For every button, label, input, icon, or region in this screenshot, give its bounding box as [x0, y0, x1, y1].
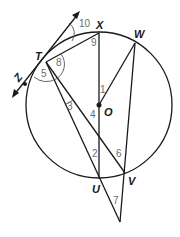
angle-4: 4	[90, 109, 96, 120]
chord-tv	[46, 62, 125, 173]
angle-10: 10	[79, 18, 91, 29]
label-o: O	[104, 106, 113, 118]
angle-7: 7	[113, 195, 119, 206]
radius-ow	[99, 43, 135, 105]
secant-t-apex	[46, 62, 120, 222]
center-dot-o	[97, 103, 102, 108]
angle-8: 8	[56, 57, 62, 68]
secant-w-apex	[120, 43, 135, 222]
label-v: V	[128, 175, 137, 187]
label-u: U	[92, 183, 101, 195]
angle-2: 2	[92, 148, 98, 159]
circle-geometry-diagram: T X W O U V Z 1 2 3 4 5 6 7 8 9 10	[0, 0, 180, 237]
point-z-dot	[23, 82, 27, 86]
angle-9: 9	[91, 37, 97, 48]
angle-3: 3	[67, 101, 73, 112]
angle-6: 6	[116, 148, 122, 159]
label-x: X	[95, 19, 104, 31]
angle-1: 1	[100, 84, 106, 95]
label-w: W	[134, 28, 146, 40]
angle-5: 5	[41, 68, 47, 79]
